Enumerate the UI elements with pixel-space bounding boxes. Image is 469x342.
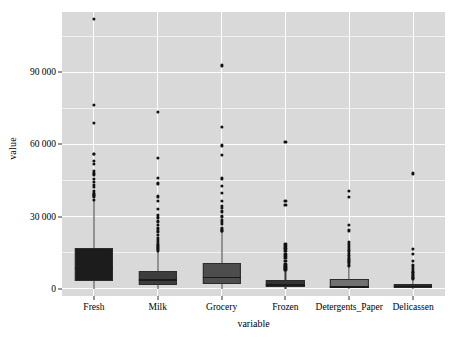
outlier-point — [411, 277, 414, 280]
boxplot-group-frozen — [254, 12, 318, 296]
outlier-point — [156, 157, 159, 160]
x-axis-title: variable — [62, 318, 445, 329]
x-axis-tick-label: Frozen — [272, 302, 298, 312]
x-axis-ticks — [62, 296, 445, 301]
outlier-point — [348, 264, 351, 267]
outlier-point — [220, 199, 223, 202]
x-axis-tick-label: Detergents_Paper — [316, 302, 383, 312]
outlier-point — [156, 176, 159, 179]
boxplot-group-grocery — [190, 12, 254, 296]
box-rect — [202, 263, 240, 283]
outlier-point — [411, 259, 414, 262]
outlier-point — [220, 210, 223, 213]
x-axis-tick-mark — [93, 296, 94, 300]
outlier-point — [348, 189, 351, 192]
outlier-point — [92, 104, 95, 107]
box-rect — [139, 271, 177, 285]
outlier-point — [348, 195, 351, 198]
outlier-point — [92, 198, 95, 201]
outlier-point — [284, 141, 287, 144]
x-axis-tick-labels: FreshMilkGroceryFrozenDetergents_PaperDe… — [62, 302, 445, 316]
outlier-point — [220, 229, 223, 232]
median-line — [75, 268, 113, 269]
outlier-point — [156, 200, 159, 203]
outlier-point — [411, 253, 414, 256]
y-axis-ticks: 030 00060 00090 000 — [0, 0, 56, 342]
outlier-point — [92, 121, 95, 124]
x-axis-tick-mark — [221, 296, 222, 300]
x-axis-tick-mark — [413, 296, 414, 300]
boxplot-group-detergents_paper — [317, 12, 381, 296]
median-line — [266, 284, 304, 285]
outlier-point — [92, 162, 95, 165]
outlier-point — [348, 223, 351, 226]
y-axis-tick-label: 30 000 — [0, 212, 56, 222]
outlier-point — [220, 206, 223, 209]
x-axis-tick-label: Fresh — [83, 302, 104, 312]
boxplot-group-fresh — [62, 12, 126, 296]
box-rect — [75, 248, 113, 281]
outlier-point — [411, 172, 414, 175]
outlier-point — [220, 223, 223, 226]
outlier-point — [284, 203, 287, 206]
x-axis-tick-mark — [349, 296, 350, 300]
median-line — [202, 277, 240, 278]
x-axis-tick-label: Milk — [149, 302, 167, 312]
outlier-point — [156, 182, 159, 185]
outlier-point — [92, 173, 95, 176]
boxplot-group-delicassen — [381, 12, 445, 296]
outlier-point — [156, 195, 159, 198]
page-footer-strip — [0, 336, 469, 342]
boxplot-group-milk — [126, 12, 190, 296]
outlier-point — [92, 152, 95, 155]
outlier-point — [411, 247, 414, 250]
x-axis-tick-label: Delicassen — [393, 302, 434, 312]
y-axis-tick-label: 90 000 — [0, 67, 56, 77]
median-line — [394, 286, 432, 287]
outlier-point — [92, 185, 95, 188]
x-axis-tick-mark — [157, 296, 158, 300]
outlier-point — [220, 153, 223, 156]
x-axis-tick-label: Grocery — [206, 302, 237, 312]
outlier-point — [220, 177, 223, 180]
y-axis-tick-label: 0 — [0, 284, 56, 294]
boxplot-figure: value 030 00060 00090 000 FreshMilkGroce… — [0, 0, 469, 342]
outlier-point — [220, 144, 223, 147]
outlier-point — [156, 207, 159, 210]
outlier-point — [220, 185, 223, 188]
outlier-point — [156, 110, 159, 113]
outlier-point — [220, 192, 223, 195]
median-line — [139, 279, 177, 280]
median-line — [330, 286, 368, 287]
outlier-point — [220, 64, 223, 67]
y-axis-tick-label: 60 000 — [0, 139, 56, 149]
outlier-point — [284, 268, 287, 271]
outlier-point — [348, 229, 351, 232]
x-axis-tick-mark — [285, 296, 286, 300]
outlier-point — [156, 249, 159, 252]
outlier-point — [92, 17, 95, 20]
outlier-point — [220, 125, 223, 128]
plot-panel — [62, 12, 445, 296]
